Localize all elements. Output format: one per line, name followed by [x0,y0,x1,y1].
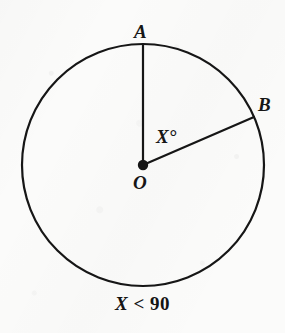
central-angle-label: X° [156,127,176,146]
point-label-b: B [258,95,271,114]
caption-variable: X [115,293,128,314]
geometry-canvas [0,0,285,333]
caption-relation: < [133,293,144,314]
point-label-o: O [133,173,147,192]
caption-relation-and-value: < 90 [128,293,170,314]
point-label-a: A [134,22,147,41]
figure-caption: X < 90 [0,294,285,313]
center-point-dot [138,160,148,170]
geometry-figure: A B O X° X < 90 [0,0,285,333]
caption-value: 90 [150,293,170,314]
